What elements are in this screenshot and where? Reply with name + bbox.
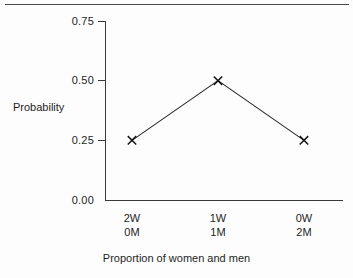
data-point-marker (214, 76, 222, 84)
y-axis-line (105, 21, 106, 201)
x-category-label-2: 0W 2M (269, 211, 339, 239)
y-tick-label-050: 0.50 (34, 75, 94, 86)
x-category-label-2-bottom: 2M (269, 225, 339, 239)
y-tick-label-075: 0.75 (34, 16, 94, 27)
x-category-label-0-bottom: 0M (97, 225, 167, 239)
series-line (132, 81, 304, 141)
data-point-marker (128, 136, 136, 144)
y-tick-mark-025 (98, 140, 105, 141)
x-category-label-1-top: 1W (183, 211, 253, 225)
x-category-label-0: 2W 0M (97, 211, 167, 239)
x-category-label-0-top: 2W (97, 211, 167, 225)
y-tick-label-025: 0.25 (34, 135, 94, 146)
y-tick-label-075-wrap: 0.75 (34, 16, 94, 27)
chart-figure: 0.75 0.50 0.25 0.00 Probability 2W 0M 1W… (0, 0, 353, 278)
y-tick-mark-050 (98, 80, 105, 81)
x-category-label-1-bottom: 1M (183, 225, 253, 239)
y-tick-label-000-wrap: 0.00 (34, 195, 94, 206)
y-tick-label-050-wrap: 0.50 (34, 75, 94, 86)
x-axis-title: Proportion of women and men (0, 252, 353, 264)
page-top-rule (5, 4, 349, 5)
marker-layer (128, 76, 308, 144)
y-axis-title: Probability (13, 101, 64, 113)
x-axis-line (105, 200, 343, 201)
y-tick-label-000: 0.00 (34, 195, 94, 206)
x-category-label-1: 1W 1M (183, 211, 253, 239)
y-tick-mark-075 (98, 21, 105, 22)
data-point-marker (300, 136, 308, 144)
x-category-label-2-top: 0W (269, 211, 339, 225)
y-tick-label-025-wrap: 0.25 (34, 135, 94, 146)
